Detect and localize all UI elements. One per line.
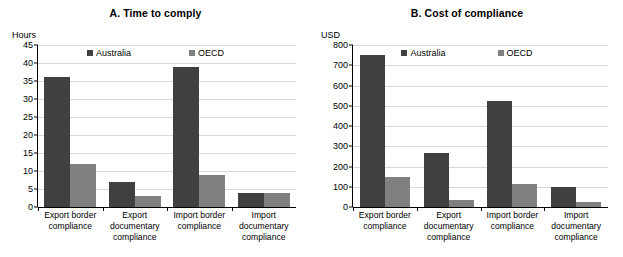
y-tick-label-45: 45 bbox=[0, 40, 33, 50]
y-tick-label-800: 800 bbox=[314, 40, 348, 50]
bar-group bbox=[38, 45, 103, 207]
bar-australia bbox=[551, 187, 576, 207]
bar-australia bbox=[424, 153, 449, 207]
x-axis-category-label: Import bordercompliance bbox=[167, 210, 232, 243]
y-tick-label-25: 25 bbox=[0, 112, 33, 122]
panel-b-title: B. Cost of compliance bbox=[311, 7, 623, 19]
bar-australia bbox=[487, 101, 512, 207]
y-tick-label-500: 500 bbox=[314, 101, 348, 111]
y-tick-label-100: 100 bbox=[314, 182, 348, 192]
panel-b-plot-area: 8007006005004003002001000 bbox=[353, 45, 608, 207]
bar-oecd bbox=[135, 196, 161, 207]
y-tick-label-5: 5 bbox=[0, 184, 33, 194]
y-tick-label-400: 400 bbox=[314, 121, 348, 131]
bar-australia bbox=[360, 55, 385, 207]
y-tick-label-300: 300 bbox=[314, 141, 348, 151]
x-axis-category-label: Export bordercompliance bbox=[353, 210, 417, 243]
panel-a-y-axis-unit: Hours bbox=[12, 30, 36, 40]
bar-oecd bbox=[449, 200, 474, 207]
y-tick-label-35: 35 bbox=[0, 76, 33, 86]
y-tick-label-200: 200 bbox=[314, 162, 348, 172]
panel-a-title: A. Time to comply bbox=[0, 7, 311, 19]
y-tick-label-700: 700 bbox=[314, 60, 348, 70]
y-tick-label-10: 10 bbox=[0, 166, 33, 176]
x-axis-category-label: Exportdocumentarycompliance bbox=[417, 210, 481, 243]
panel-a-plot-area: 454035302520151050 bbox=[38, 45, 296, 207]
bar-australia bbox=[238, 193, 264, 207]
x-axis-category-label: Importdocumentarycompliance bbox=[232, 210, 297, 243]
bar-australia bbox=[109, 182, 135, 207]
x-axis-category-label: Exportdocumentarycompliance bbox=[103, 210, 168, 243]
bar-oecd bbox=[264, 193, 290, 207]
y-tick-label-600: 600 bbox=[314, 81, 348, 91]
y-tick-label-0: 0 bbox=[314, 202, 348, 212]
bar-australia bbox=[173, 67, 199, 207]
bar-oecd bbox=[199, 175, 225, 207]
bar-group bbox=[481, 45, 545, 207]
y-tick-label-15: 15 bbox=[0, 148, 33, 158]
panel-b-x-axis-labels: Export bordercomplianceExportdocumentary… bbox=[353, 210, 608, 243]
panel-a-time-to-comply: A. Time to comply Hours Australia OECD 4… bbox=[0, 0, 311, 257]
bar-group bbox=[232, 45, 297, 207]
bar-group bbox=[353, 45, 417, 207]
x-axis-category-label: Importdocumentarycompliance bbox=[544, 210, 608, 243]
bar-oecd bbox=[576, 202, 601, 207]
bar-group bbox=[167, 45, 232, 207]
y-tick-label-40: 40 bbox=[0, 58, 33, 68]
panel-a-bar-groups bbox=[38, 45, 296, 207]
panel-b-y-axis-unit: USD bbox=[321, 30, 340, 40]
panel-b-bar-groups bbox=[353, 45, 608, 207]
y-tick-label-0: 0 bbox=[0, 202, 33, 212]
panel-a-x-axis-labels: Export bordercomplianceExportdocumentary… bbox=[38, 210, 296, 243]
y-tick-label-30: 30 bbox=[0, 94, 33, 104]
bar-group bbox=[544, 45, 608, 207]
bar-australia bbox=[44, 77, 70, 207]
x-axis-category-label: Export bordercompliance bbox=[38, 210, 103, 243]
figure-two-panel-bar-charts: A. Time to comply Hours Australia OECD 4… bbox=[0, 0, 623, 257]
x-axis-category-label: Import bordercompliance bbox=[481, 210, 545, 243]
bar-oecd bbox=[70, 164, 96, 207]
y-tick-label-20: 20 bbox=[0, 130, 33, 140]
bar-group bbox=[103, 45, 168, 207]
bar-oecd bbox=[385, 177, 410, 207]
bar-group bbox=[417, 45, 481, 207]
panel-b-cost-of-compliance: B. Cost of compliance USD Australia OECD… bbox=[311, 0, 623, 257]
bar-oecd bbox=[512, 184, 537, 207]
